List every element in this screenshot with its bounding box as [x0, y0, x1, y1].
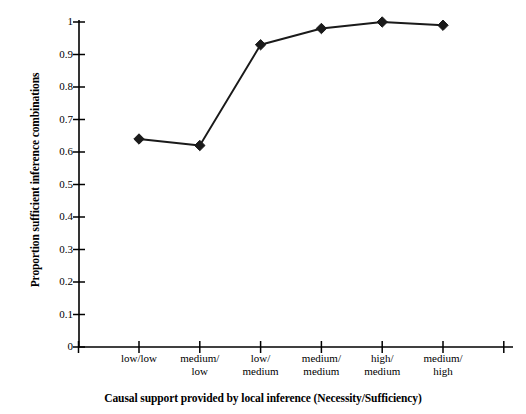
- data-point-marker: [195, 140, 205, 150]
- x-axis-tick-label: medium/high: [388, 352, 498, 378]
- series-polyline: [139, 22, 443, 146]
- data-point-marker: [438, 20, 448, 30]
- x-axis-tick-labels: low/lowmedium/lowlow/mediummedium/medium…: [0, 352, 526, 388]
- data-point-marker: [316, 23, 326, 33]
- chart-figure: Proportion sufficient inference combinat…: [0, 0, 526, 414]
- data-series-line: [139, 22, 443, 146]
- x-axis-title: Causal support provided by local inferen…: [0, 392, 526, 404]
- axes: [78, 20, 513, 347]
- data-point-marker: [134, 134, 144, 144]
- data-point-marker: [377, 17, 387, 27]
- data-point-marker: [255, 40, 265, 50]
- x-axis-tick-label-line: medium/: [388, 352, 498, 365]
- x-axis-tick-label-line: high: [388, 365, 498, 378]
